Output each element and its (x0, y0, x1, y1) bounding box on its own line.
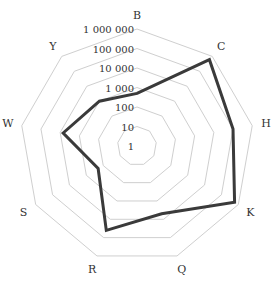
axis-label-c: C (217, 40, 225, 53)
axis-label-b: B (133, 9, 141, 22)
axis-label-y: Y (48, 40, 57, 53)
axis-label-q: Q (177, 263, 186, 276)
grid-ring-100 (99, 107, 176, 183)
axis-label-s: S (20, 206, 28, 219)
radial-tick-labels: 1101001 00010 000100 0001 000 000 (83, 24, 134, 152)
axis-label-k: K (246, 206, 255, 219)
grid-ring-10000 (60, 68, 214, 219)
radar-chart: 1101001 00010 000100 0001 000 000 BCHKQR… (0, 0, 274, 285)
radar-plot-area: 1101001 00010 000100 0001 000 000 BCHKQR… (0, 0, 274, 285)
tick-label: 100 (115, 102, 134, 113)
tick-label: 10 (121, 122, 134, 133)
tick-label: 100 000 (93, 44, 134, 55)
grid-ring-100000 (41, 49, 233, 238)
axis-label-w: W (2, 117, 14, 130)
tick-label: 1 (128, 141, 134, 152)
tick-label: 1 000 (105, 83, 134, 94)
axis-label-r: R (88, 263, 97, 276)
axis-label-h: H (261, 117, 271, 130)
tick-label: 1 000 000 (83, 24, 134, 35)
tick-label: 10 000 (99, 63, 134, 74)
